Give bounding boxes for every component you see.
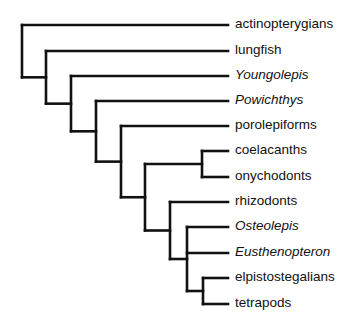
taxon-label-coelacanths: coelacanths: [235, 142, 307, 158]
taxon-label-eusthenopteron: Eusthenopteron: [235, 244, 330, 260]
taxon-label-elpistostegalians: elpistostegalians: [235, 269, 335, 285]
taxon-label-rhizodonts: rhizodonts: [235, 193, 297, 209]
taxon-label-actinopterygians: actinopterygians: [235, 16, 333, 32]
taxon-label-lungfish: lungfish: [235, 42, 282, 58]
taxon-label-powichthys: Powichthys: [235, 92, 303, 108]
taxon-label-tetrapods: tetrapods: [235, 295, 291, 311]
taxon-label-onychodonts: onychodonts: [235, 168, 312, 184]
taxon-label-porolepiforms: porolepiforms: [235, 117, 317, 133]
taxon-label-osteolepis: Osteolepis: [235, 218, 299, 234]
taxon-label-youngolepis: Youngolepis: [235, 67, 309, 83]
